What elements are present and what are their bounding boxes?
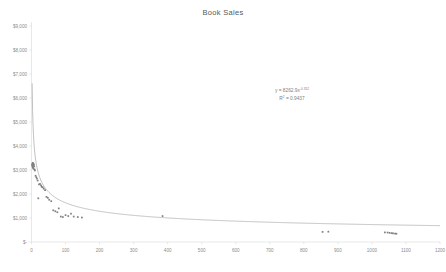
y-axis: $-$1,000$2,000$3,000$4,000$5,000$6,000$7… xyxy=(13,22,32,245)
data-point xyxy=(37,197,39,199)
data-point xyxy=(33,166,35,168)
data-point xyxy=(47,197,49,199)
y-axis-tick-label: $9,000 xyxy=(13,24,27,29)
data-point xyxy=(73,216,75,218)
x-axis-tick-label: 400 xyxy=(164,248,172,253)
data-point xyxy=(54,210,56,212)
r-squared-text: R2 = 0.9437 xyxy=(279,95,305,101)
data-point xyxy=(70,213,72,215)
power-trendline-path xyxy=(32,83,440,225)
data-point xyxy=(81,217,83,219)
data-point xyxy=(162,215,164,217)
y-axis-tick-label: $5,000 xyxy=(13,120,27,125)
x-axis-tick-label: 1000 xyxy=(367,248,378,253)
y-axis-tick-label: $7,000 xyxy=(13,72,27,77)
data-point xyxy=(58,208,60,210)
equation-text: y = 8262.9x-0.352 xyxy=(275,87,309,93)
data-point xyxy=(60,216,62,218)
y-axis-tick-label: $3,000 xyxy=(13,168,27,173)
x-axis-tick-label: 900 xyxy=(334,248,342,253)
data-point xyxy=(327,231,329,233)
data-point xyxy=(36,178,38,180)
scatter-plot: $-$1,000$2,000$3,000$4,000$5,000$6,000$7… xyxy=(0,0,446,272)
trendline xyxy=(32,83,440,225)
data-point xyxy=(387,232,389,234)
data-point xyxy=(34,170,36,172)
data-point xyxy=(322,231,324,233)
x-axis-tick-label: 700 xyxy=(266,248,274,253)
x-axis: 0100200300400500600700800900100011001200 xyxy=(30,242,445,253)
trendline-equation-annotation: y = 8262.9x-0.352R2 = 0.9437 xyxy=(275,87,309,101)
y-axis-tick-label: $8,000 xyxy=(13,48,27,53)
x-axis-tick-label: 200 xyxy=(96,248,104,253)
data-point xyxy=(384,232,386,234)
x-axis-tick-label: 800 xyxy=(300,248,308,253)
data-point xyxy=(62,216,64,218)
data-point xyxy=(65,214,67,216)
x-axis-tick-label: 0 xyxy=(30,248,33,253)
x-axis-tick-label: 600 xyxy=(232,248,240,253)
x-axis-tick-label: 500 xyxy=(198,248,206,253)
x-axis-tick-label: 1200 xyxy=(435,248,446,253)
chart-container: Book Sales $-$1,000$2,000$3,000$4,000$5,… xyxy=(0,0,446,272)
data-point xyxy=(389,232,391,234)
data-point xyxy=(77,216,79,218)
data-point xyxy=(50,200,52,202)
data-point xyxy=(52,209,54,211)
data-point xyxy=(48,199,50,201)
data-point xyxy=(44,189,46,191)
x-axis-tick-label: 1100 xyxy=(401,248,411,253)
data-point xyxy=(37,180,39,182)
data-point xyxy=(392,233,394,235)
x-axis-tick-label: 100 xyxy=(62,248,70,253)
data-point xyxy=(396,233,398,235)
data-point xyxy=(57,211,59,213)
y-axis-tick-label: $- xyxy=(23,240,28,245)
data-point xyxy=(67,215,69,217)
y-axis-tick-label: $4,000 xyxy=(13,144,27,149)
x-axis-tick-label: 300 xyxy=(130,248,138,253)
y-axis-tick-label: $1,000 xyxy=(13,216,27,221)
y-axis-tick-label: $2,000 xyxy=(13,192,27,197)
y-axis-tick-label: $6,000 xyxy=(13,96,27,101)
